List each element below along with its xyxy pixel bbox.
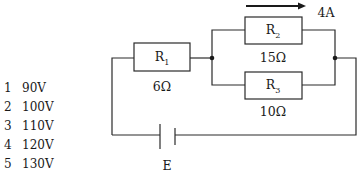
wire-right: [175, 58, 356, 135]
option-3: 3110V: [4, 119, 54, 133]
resistor-r2-value: 15Ω: [260, 50, 286, 65]
wire-left: [112, 58, 134, 135]
resistor-r1-label: R1: [155, 49, 170, 67]
current-arrow-icon: [246, 3, 306, 10]
option-5: 5130V: [4, 157, 54, 171]
junction-dot-left: [210, 56, 215, 61]
resistor-r3-value: 10Ω: [260, 104, 286, 119]
resistor-r2-label: R2: [266, 22, 281, 40]
junction-dot-right: [333, 56, 338, 61]
wire-left-branch: [212, 30, 245, 85]
wire-right-branch: [302, 30, 335, 85]
resistor-r3-label: R3: [266, 77, 281, 95]
resistor-r1-value: 6Ω: [153, 79, 171, 94]
option-1: 190V: [4, 81, 46, 95]
source-label: E: [162, 158, 171, 173]
circuit-diagram: [0, 0, 361, 174]
option-4: 4120V: [4, 138, 54, 152]
option-2: 2100V: [4, 100, 54, 114]
current-label: 4A: [318, 5, 335, 20]
